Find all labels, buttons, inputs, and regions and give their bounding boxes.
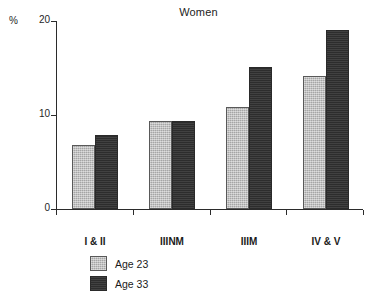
- bar-iiim-age-23: [226, 107, 249, 209]
- y-tick-label: 20: [39, 14, 50, 25]
- x-tick-mark: [210, 210, 211, 215]
- bar-iiim-age-33: [249, 67, 272, 209]
- chart-figure: Women % 01020 I & IIIIINMIIIMIV & V Age …: [0, 0, 373, 306]
- chart-legend: Age 23Age 33: [90, 255, 148, 295]
- dark-swatch: [90, 276, 107, 291]
- plot-area: 01020 I & IIIIINMIIIMIV & V: [56, 21, 363, 209]
- x-tick-mark: [56, 210, 57, 215]
- bar-iiinm-age-23: [149, 121, 172, 209]
- x-tick-mark: [286, 210, 287, 215]
- y-tick-mark: [51, 115, 56, 116]
- bar-iiinm-age-33: [172, 121, 195, 209]
- y-tick-label: 10: [39, 108, 50, 119]
- category-label: IV & V: [312, 236, 341, 247]
- legend-label: Age 23: [115, 258, 148, 270]
- category-label: IIIM: [241, 236, 258, 247]
- bar-iv-v-age-23: [303, 76, 326, 209]
- chart-title-text: Women: [179, 6, 218, 18]
- y-tick-mark: [51, 21, 56, 22]
- x-tick-mark: [133, 210, 134, 215]
- y-tick-label: 0: [44, 202, 50, 213]
- legend-item-age-33: Age 33: [90, 275, 148, 292]
- y-axis-line: [56, 21, 57, 210]
- legend-item-age-23: Age 23: [90, 255, 148, 272]
- legend-label: Age 33: [115, 278, 148, 290]
- y-axis-unit-label: %: [9, 15, 18, 26]
- chart-title: Women: [0, 6, 373, 18]
- x-tick-mark: [363, 210, 364, 215]
- light-gray-swatch: [90, 256, 107, 271]
- bar-i-ii-age-33: [95, 135, 118, 209]
- category-label: I & II: [84, 236, 105, 247]
- category-label: IIINM: [160, 236, 184, 247]
- bar-iv-v-age-33: [326, 30, 349, 209]
- bar-i-ii-age-23: [72, 145, 95, 209]
